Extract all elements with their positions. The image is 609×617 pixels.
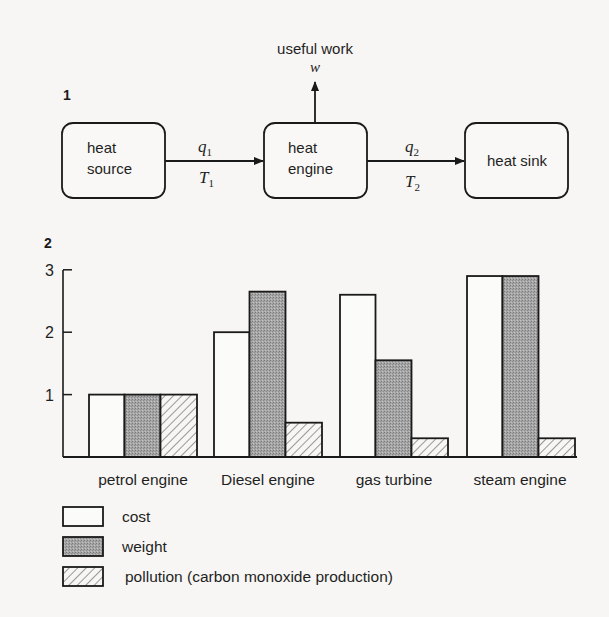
heat-sink-label: heat sink xyxy=(487,152,548,169)
x-axis-label: petrol engine xyxy=(98,471,188,488)
x-axis-label: Diesel engine xyxy=(221,471,315,488)
bar-group-diesel-engine xyxy=(214,292,322,457)
comparison-bar-chart: 2 123 petrol engineDiesel enginegas turb… xyxy=(44,235,577,586)
bar-cost xyxy=(214,332,250,457)
heat-source-node: heat source xyxy=(62,123,165,198)
legend-item: pollution (carbon monoxide production) xyxy=(63,567,393,586)
x-axis-labels: petrol engineDiesel enginegas turbineste… xyxy=(98,471,566,488)
heat-flow-out-arrow: q2 T2 xyxy=(367,137,464,193)
q2-subscript: 2 xyxy=(414,146,420,158)
svg-text:q2: q2 xyxy=(405,137,419,158)
bar-group-steam-engine xyxy=(467,276,575,457)
q1-subscript: 1 xyxy=(207,146,213,158)
bars xyxy=(89,276,575,457)
heat-engine-diagram: 1 heat source heat engine heat sink q1 T… xyxy=(62,40,568,198)
svg-text:T1: T1 xyxy=(199,168,214,189)
bar-weight xyxy=(376,360,412,457)
heat-source-label-line2: source xyxy=(87,160,132,177)
x-axis-label: gas turbine xyxy=(356,471,433,488)
bar-cost xyxy=(340,295,376,457)
y-tick-label: 1 xyxy=(45,387,54,404)
y-tick-label: 3 xyxy=(45,262,54,279)
bar-weight xyxy=(125,395,161,457)
figure: 1 heat source heat engine heat sink q1 T… xyxy=(0,0,609,617)
heat-engine-label-line1: heat xyxy=(288,139,318,156)
heat-flow-in-arrow: q1 T1 xyxy=(165,137,263,189)
figure-2-number: 2 xyxy=(44,235,52,251)
legend-label: weight xyxy=(121,538,167,555)
legend-item: cost xyxy=(63,507,151,526)
y-tick-label: 2 xyxy=(45,324,54,341)
bar-weight xyxy=(503,276,539,457)
heat-engine-node: heat engine xyxy=(264,123,367,198)
legend-swatch xyxy=(63,567,103,586)
legend-swatch xyxy=(63,537,103,556)
work-symbol: w xyxy=(310,59,320,75)
legend: costweightpollution (carbon monoxide pro… xyxy=(63,507,393,586)
t2-subscript: 2 xyxy=(414,181,420,193)
heat-sink-node: heat sink xyxy=(465,123,568,198)
bar-pollution xyxy=(161,395,198,457)
bar-pollution xyxy=(412,438,449,457)
x-axis-label: steam engine xyxy=(473,471,566,488)
bar-pollution xyxy=(286,423,323,457)
svg-text:T2: T2 xyxy=(405,172,420,193)
useful-work-arrow: useful work w xyxy=(277,40,353,123)
bar-cost xyxy=(89,395,125,457)
useful-work-label: useful work xyxy=(277,40,353,57)
legend-item: weight xyxy=(63,537,167,556)
svg-text:q1: q1 xyxy=(198,137,212,158)
legend-label: cost xyxy=(122,508,151,525)
heat-engine-label-line2: engine xyxy=(288,160,333,177)
t1-subscript: 1 xyxy=(208,177,214,189)
bar-pollution xyxy=(539,438,576,457)
y-axis: 123 xyxy=(45,262,72,457)
bar-cost xyxy=(467,276,503,457)
legend-label: pollution (carbon monoxide production) xyxy=(125,568,393,585)
bar-weight xyxy=(250,292,286,457)
legend-swatch xyxy=(63,507,103,526)
heat-source-label-line1: heat xyxy=(87,139,117,156)
bar-group-petrol-engine xyxy=(89,395,197,457)
figure-1-number: 1 xyxy=(63,87,71,103)
bar-group-gas-turbine xyxy=(340,295,448,457)
